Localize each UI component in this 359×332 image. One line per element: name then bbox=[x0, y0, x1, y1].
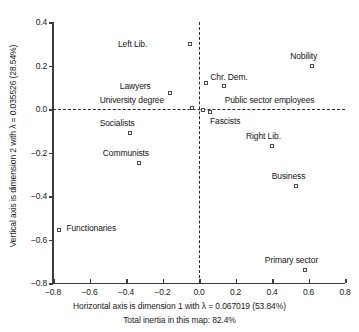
data-point-marker bbox=[294, 184, 298, 188]
plot-area: 0.40.20.0−0.2−0.4−0.6−0.8 −0.8−0.6−0.4−0… bbox=[53, 22, 345, 283]
x-tick-label: −0.4 bbox=[118, 288, 134, 297]
y-tick-label: 0.2 bbox=[36, 61, 47, 70]
y-tick bbox=[49, 240, 53, 242]
y-tick bbox=[49, 153, 53, 155]
data-point-label: Lawyers bbox=[120, 82, 151, 91]
y-tick bbox=[49, 22, 53, 24]
data-point-label: Socialists bbox=[100, 119, 135, 128]
data-point-label: Left Lib. bbox=[118, 40, 147, 49]
total-inertia-caption: Total inertia in this map: 82.4% bbox=[0, 315, 359, 325]
y-tick-label: −0.6 bbox=[31, 235, 47, 244]
data-point-marker bbox=[310, 64, 314, 68]
data-point-marker bbox=[188, 42, 192, 46]
x-tick-label: −0.8 bbox=[45, 288, 61, 297]
data-point-marker bbox=[168, 91, 172, 95]
y-tick bbox=[49, 283, 53, 285]
data-point-label: Communists bbox=[103, 149, 149, 158]
data-point-label: Business bbox=[272, 172, 306, 181]
vertical-reference-line bbox=[199, 22, 200, 283]
y-tick bbox=[49, 196, 53, 198]
x-tick-label: 0.2 bbox=[230, 288, 241, 297]
x-tick bbox=[163, 279, 165, 283]
data-point-marker bbox=[190, 106, 194, 110]
data-point-label: Right Lib. bbox=[246, 132, 281, 141]
data-point-label: University degree bbox=[100, 96, 164, 105]
y-tick-label: 0.0 bbox=[36, 105, 47, 114]
data-point-label: Nobility bbox=[290, 52, 317, 61]
data-point-label: Functionaries bbox=[66, 224, 116, 233]
x-tick-label: 0.8 bbox=[339, 288, 350, 297]
data-point-marker bbox=[137, 161, 141, 165]
data-point-marker bbox=[201, 108, 205, 112]
data-point-label: Chr. Dem. bbox=[210, 73, 247, 82]
x-tick bbox=[53, 279, 55, 283]
y-axis-title: Vertical axis is dimension 2 with λ = 0.… bbox=[8, 21, 18, 271]
x-tick bbox=[236, 279, 238, 283]
x-tick bbox=[126, 279, 128, 283]
data-point-label: Primary sector bbox=[265, 256, 318, 265]
y-tick bbox=[49, 66, 53, 68]
y-tick-label: −0.2 bbox=[31, 148, 47, 157]
data-point-label: Fascists bbox=[210, 117, 240, 126]
x-tick-label: −0.6 bbox=[82, 288, 98, 297]
x-tick-label: 0.0 bbox=[193, 288, 204, 297]
x-tick bbox=[309, 279, 311, 283]
data-point-label: Public sector employees bbox=[225, 96, 315, 105]
y-tick-label: −0.8 bbox=[31, 279, 47, 288]
data-point-marker bbox=[270, 144, 274, 148]
correspondence-analysis-map: 0.40.20.0−0.2−0.4−0.6−0.8 −0.8−0.6−0.4−0… bbox=[0, 0, 359, 332]
data-point-marker bbox=[208, 110, 212, 114]
data-point-marker bbox=[204, 81, 208, 85]
x-axis-title: Horizontal axis is dimension 1 with λ = … bbox=[0, 301, 359, 311]
x-tick-label: −0.2 bbox=[155, 288, 171, 297]
data-point-marker bbox=[303, 268, 307, 272]
x-tick-label: 0.4 bbox=[266, 288, 277, 297]
y-tick-label: −0.4 bbox=[31, 192, 47, 201]
data-point-marker bbox=[222, 84, 226, 88]
data-point-marker bbox=[57, 228, 61, 232]
data-point-marker bbox=[128, 131, 132, 135]
x-tick bbox=[345, 279, 347, 283]
x-tick-label: 0.6 bbox=[303, 288, 314, 297]
x-tick bbox=[90, 279, 92, 283]
x-tick bbox=[272, 279, 274, 283]
y-tick-label: 0.4 bbox=[36, 18, 47, 27]
